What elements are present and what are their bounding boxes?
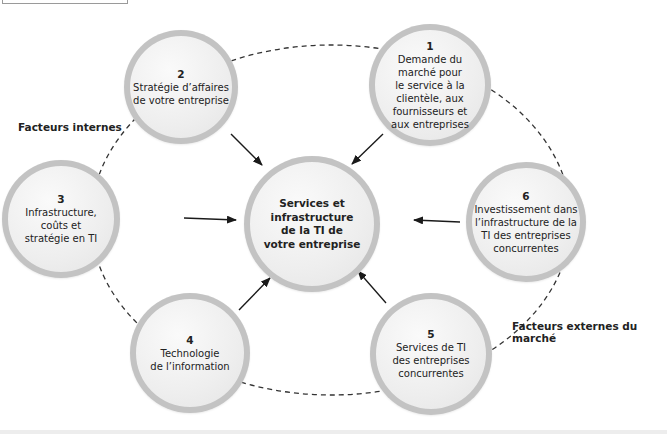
node-text: Demande du marché pour le service à la c…: [385, 53, 475, 131]
node-3-infrastructure: 3 Infrastructure, coûts et stratégie en …: [2, 160, 120, 278]
arrow-from-2: [231, 134, 262, 165]
node-number: 6: [522, 190, 529, 203]
node-number: 5: [427, 328, 434, 341]
node-number: 1: [426, 40, 433, 53]
arrow-from-5: [358, 271, 386, 303]
node-text: Stratégie d’affaires de votre entreprise: [127, 81, 235, 107]
center-node-it-services: Services et infrastructure de la TI de v…: [244, 156, 380, 292]
label-internal-factors: Facteurs internes: [18, 121, 122, 133]
node-number: 2: [177, 68, 184, 81]
node-number: 4: [186, 334, 193, 347]
node-1-market-demand: 1 Demande du marché pour le service à la…: [369, 24, 491, 146]
node-4-information-technology: 4 Technologie de l’information: [130, 293, 250, 413]
node-text: Investissement dans l’infrastructure de …: [468, 203, 583, 255]
node-text: Services de TI des entreprises concurren…: [386, 341, 475, 380]
arrow-from-4: [239, 278, 270, 310]
label-external-factors: Facteurs externes du marché: [512, 320, 667, 344]
node-5-competitor-services: 5 Services de TI des entreprises concurr…: [370, 293, 492, 415]
arrow-from-1: [352, 134, 383, 164]
arrow-from-6: [414, 220, 460, 222]
bottom-rule: [0, 430, 667, 434]
arrow-from-3: [184, 218, 236, 220]
node-6-competitor-investment: 6 Investissement dans l’infrastructure d…: [466, 162, 586, 282]
node-text: Infrastructure, coûts et stratégie en TI: [19, 206, 104, 245]
center-node-text: Services et infrastructure de la TI de v…: [258, 197, 367, 251]
node-number: 3: [57, 193, 64, 206]
node-text: Technologie de l’information: [144, 347, 235, 373]
node-2-business-strategy: 2 Stratégie d’affaires de votre entrepri…: [124, 30, 238, 144]
